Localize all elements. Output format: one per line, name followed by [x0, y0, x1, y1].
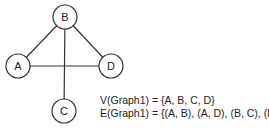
edge-b-c [64, 17, 65, 111]
node-a-label: A [14, 60, 22, 72]
edge-set-text: E(Graph1) = {(A, B), (A, D), (B, C), (B,… [100, 107, 269, 119]
node-b-label: B [61, 11, 68, 23]
node-d-label: D [107, 60, 115, 72]
vertex-set-text: V(Graph1) = {A, B, C, D} [100, 94, 215, 106]
node-c-label: C [60, 105, 68, 117]
